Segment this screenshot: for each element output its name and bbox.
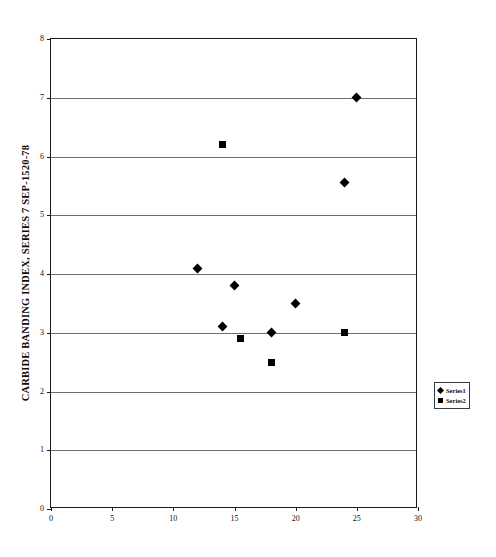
data-point-series1 — [266, 328, 276, 338]
x-tick-label-0: 0 — [49, 515, 53, 523]
data-point-series2 — [237, 335, 244, 342]
x-tick-mark-30 — [418, 507, 419, 511]
y-tick-label-5: 5 — [40, 211, 44, 219]
x-tick-label-15: 15 — [231, 515, 239, 523]
y-tick-mark-5 — [47, 215, 51, 216]
x-tick-mark-15 — [235, 507, 236, 511]
data-point-series1 — [291, 298, 301, 308]
x-tick-mark-5 — [112, 507, 113, 511]
data-point-series1 — [230, 281, 240, 291]
gridline-y-5 — [51, 215, 416, 216]
y-tick-label-4: 4 — [40, 270, 44, 278]
x-tick-label-20: 20 — [292, 515, 300, 523]
y-tick-label-8: 8 — [40, 35, 44, 43]
diamond-marker-icon — [437, 387, 444, 394]
x-tick-mark-10 — [173, 507, 174, 511]
legend-label: Series1 — [446, 387, 466, 394]
gridline-y-4 — [51, 274, 416, 275]
y-tick-mark-3 — [47, 333, 51, 334]
y-tick-label-7: 7 — [40, 94, 44, 102]
data-point-series2 — [268, 359, 275, 366]
gridline-y-1 — [51, 450, 416, 451]
data-point-series1 — [193, 263, 203, 273]
y-tick-label-0: 0 — [40, 505, 44, 513]
y-tick-mark-7 — [47, 98, 51, 99]
plot-area: 012345678 051015202530 — [50, 38, 417, 508]
y-axis-title: CARBIDE BANDING INDEX, SERIES 7 SEP-1520… — [17, 38, 33, 508]
data-point-series2 — [219, 141, 226, 148]
y-tick-mark-1 — [47, 450, 51, 451]
data-point-series1 — [352, 93, 362, 103]
gridline-y-3 — [51, 333, 416, 334]
x-tick-label-10: 10 — [169, 515, 177, 523]
chart-legend: Series1Series2 — [434, 382, 470, 409]
y-tick-label-2: 2 — [40, 388, 44, 396]
y-tick-label-3: 3 — [40, 329, 44, 337]
y-tick-mark-2 — [47, 392, 51, 393]
gridline-y-6 — [51, 157, 416, 158]
legend-item-series1[interactable]: Series1 — [438, 386, 466, 395]
data-point-series2 — [341, 329, 348, 336]
gridline-y-7 — [51, 98, 416, 99]
data-point-series1 — [340, 178, 350, 188]
x-tick-mark-0 — [51, 507, 52, 511]
x-tick-label-30: 30 — [414, 515, 422, 523]
scatter-chart-figure: CARBIDE BANDING INDEX, SERIES 7 SEP-1520… — [0, 0, 496, 557]
legend-label: Series2 — [446, 397, 466, 404]
gridline-y-2 — [51, 392, 416, 393]
x-tick-label-25: 25 — [353, 515, 361, 523]
x-tick-label-5: 5 — [110, 515, 114, 523]
x-tick-mark-20 — [296, 507, 297, 511]
y-tick-mark-6 — [47, 157, 51, 158]
y-tick-label-1: 1 — [40, 446, 44, 454]
data-point-series1 — [217, 322, 227, 332]
square-marker-icon — [438, 398, 443, 403]
y-tick-mark-8 — [47, 39, 51, 40]
x-tick-mark-25 — [357, 507, 358, 511]
y-tick-mark-4 — [47, 274, 51, 275]
y-tick-label-6: 6 — [40, 153, 44, 161]
legend-item-series2[interactable]: Series2 — [438, 396, 466, 405]
